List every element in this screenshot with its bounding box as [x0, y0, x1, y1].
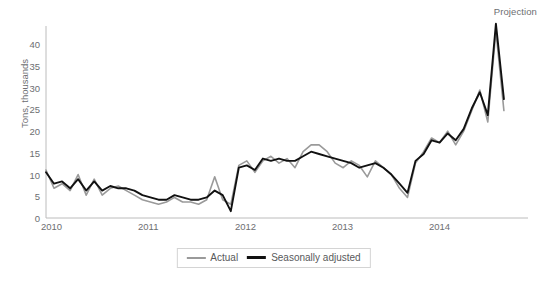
legend-line-icon-actual: [186, 257, 205, 259]
series-line-seasonally-adjusted: [46, 24, 504, 211]
legend-label-seasonally-adjusted: Seasonally adjusted: [271, 252, 361, 263]
chart-legend: Actual Seasonally adjusted: [176, 248, 370, 268]
chart-figure: Projection Tons, thousands 0 5 10 15 20 …: [0, 0, 547, 284]
legend-line-icon-seasonally-adjusted: [247, 256, 266, 259]
legend-item-actual: Actual: [186, 252, 238, 263]
legend-item-seasonally-adjusted: Seasonally adjusted: [247, 252, 361, 263]
legend-label-actual: Actual: [210, 252, 238, 263]
series-line-actual: [46, 31, 504, 205]
plot-area: [0, 0, 547, 284]
